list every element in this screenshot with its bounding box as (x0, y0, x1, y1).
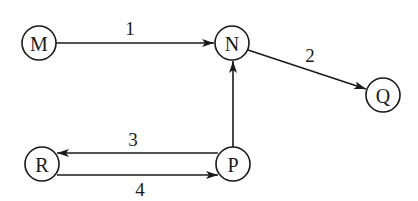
node-label-n: N (225, 33, 239, 55)
node-label-q: Q (376, 85, 391, 107)
edge-label-2: 2 (305, 45, 315, 66)
node-label-r: R (35, 154, 49, 176)
node-n: N (215, 26, 249, 60)
node-r: R (25, 147, 59, 181)
node-p: P (216, 147, 250, 181)
edge-label-3: 3 (128, 129, 138, 150)
node-label-m: M (30, 33, 48, 55)
node-m: M (22, 26, 56, 60)
edge-label-1: 1 (125, 18, 135, 39)
node-label-p: P (227, 154, 238, 176)
graph-canvas: 1 2 3 4 M N Q R P (0, 0, 418, 201)
edge-label-4: 4 (135, 179, 145, 200)
node-q: Q (366, 78, 400, 112)
